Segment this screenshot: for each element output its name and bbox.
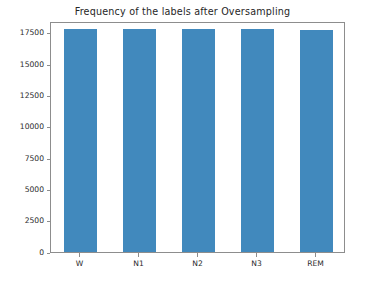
bar-n2: [182, 29, 216, 252]
x-tick-mark: [79, 253, 80, 257]
x-tick-label: REM: [307, 259, 324, 268]
x-tick-mark: [138, 253, 139, 257]
y-tick-label: 0: [39, 248, 44, 257]
x-tick-label: N1: [133, 259, 144, 268]
y-tick-mark: [47, 96, 51, 97]
y-tick-label: 7500: [25, 154, 44, 163]
bar-n1: [123, 29, 157, 252]
y-tick-label: 10000: [20, 122, 44, 131]
y-tick-mark: [47, 159, 51, 160]
y-tick-mark: [47, 65, 51, 66]
chart-title: Frequency of the labels after Oversampli…: [0, 6, 365, 17]
y-tick-mark: [47, 190, 51, 191]
y-tick-mark: [47, 127, 51, 128]
y-tick-label: 17500: [20, 28, 44, 37]
x-tick-mark: [315, 253, 316, 257]
y-axis: 025005000750010000125001500017500: [0, 22, 50, 253]
y-tick-label: 12500: [20, 91, 44, 100]
x-tick-mark: [197, 253, 198, 257]
bars-layer: [51, 23, 344, 252]
x-axis: WN1N2N3REM: [50, 253, 345, 275]
bar-w: [64, 29, 98, 252]
x-tick-label: N3: [251, 259, 262, 268]
bar-rem: [300, 30, 334, 252]
y-tick-label: 15000: [20, 60, 44, 69]
bar-n3: [241, 29, 275, 252]
bar-chart-figure: Frequency of the labels after Oversampli…: [0, 0, 365, 283]
y-tick-mark: [47, 221, 51, 222]
x-tick-label: W: [76, 259, 84, 268]
x-tick-mark: [256, 253, 257, 257]
plot-area: [50, 22, 345, 253]
y-tick-label: 2500: [25, 216, 44, 225]
x-tick-label: N2: [192, 259, 203, 268]
y-tick-mark: [47, 33, 51, 34]
y-tick-label: 5000: [25, 185, 44, 194]
